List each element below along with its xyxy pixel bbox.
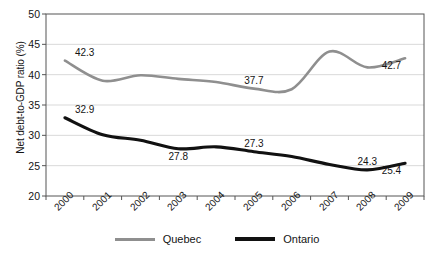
y-tick-label: 30 bbox=[20, 129, 40, 141]
legend-swatch-quebec bbox=[115, 238, 155, 241]
data-point-label: 37.7 bbox=[244, 75, 264, 86]
legend-item-quebec[interactable]: Quebec bbox=[115, 233, 202, 245]
y-tick-label: 35 bbox=[20, 99, 40, 111]
y-tick-label: 40 bbox=[20, 69, 40, 81]
data-point-label: 24.3 bbox=[358, 156, 378, 167]
data-point-label: 25.4 bbox=[382, 165, 402, 176]
data-point-label: 27.3 bbox=[244, 138, 264, 149]
legend-label-quebec: Quebec bbox=[163, 233, 202, 245]
legend-item-ontario[interactable]: Ontario bbox=[235, 233, 319, 245]
y-tick-label: 20 bbox=[20, 190, 40, 202]
line-chart: Net debt-to-GDP ratio (%) 50 45 40 35 30… bbox=[0, 0, 434, 258]
plot-area: 42.337.742.732.927.827.324.325.4 bbox=[0, 0, 434, 258]
y-tick-label: 50 bbox=[20, 8, 40, 20]
data-point-label: 42.7 bbox=[382, 60, 402, 71]
legend-swatch-ontario bbox=[235, 237, 275, 241]
data-point-label: 32.9 bbox=[75, 104, 95, 115]
y-axis-tick-labels: 50 45 40 35 30 25 20 bbox=[16, 0, 40, 258]
y-tick-label: 45 bbox=[20, 38, 40, 50]
data-point-labels: 42.337.742.732.927.827.324.325.4 bbox=[75, 47, 402, 177]
series-line-quebec bbox=[65, 51, 405, 92]
chart-legend: Quebec Ontario bbox=[0, 233, 434, 245]
data-point-label: 27.8 bbox=[169, 151, 189, 162]
data-point-label: 42.3 bbox=[75, 47, 95, 58]
legend-label-ontario: Ontario bbox=[283, 233, 319, 245]
series-line-ontario bbox=[65, 118, 405, 170]
y-tick-label: 25 bbox=[20, 160, 40, 172]
